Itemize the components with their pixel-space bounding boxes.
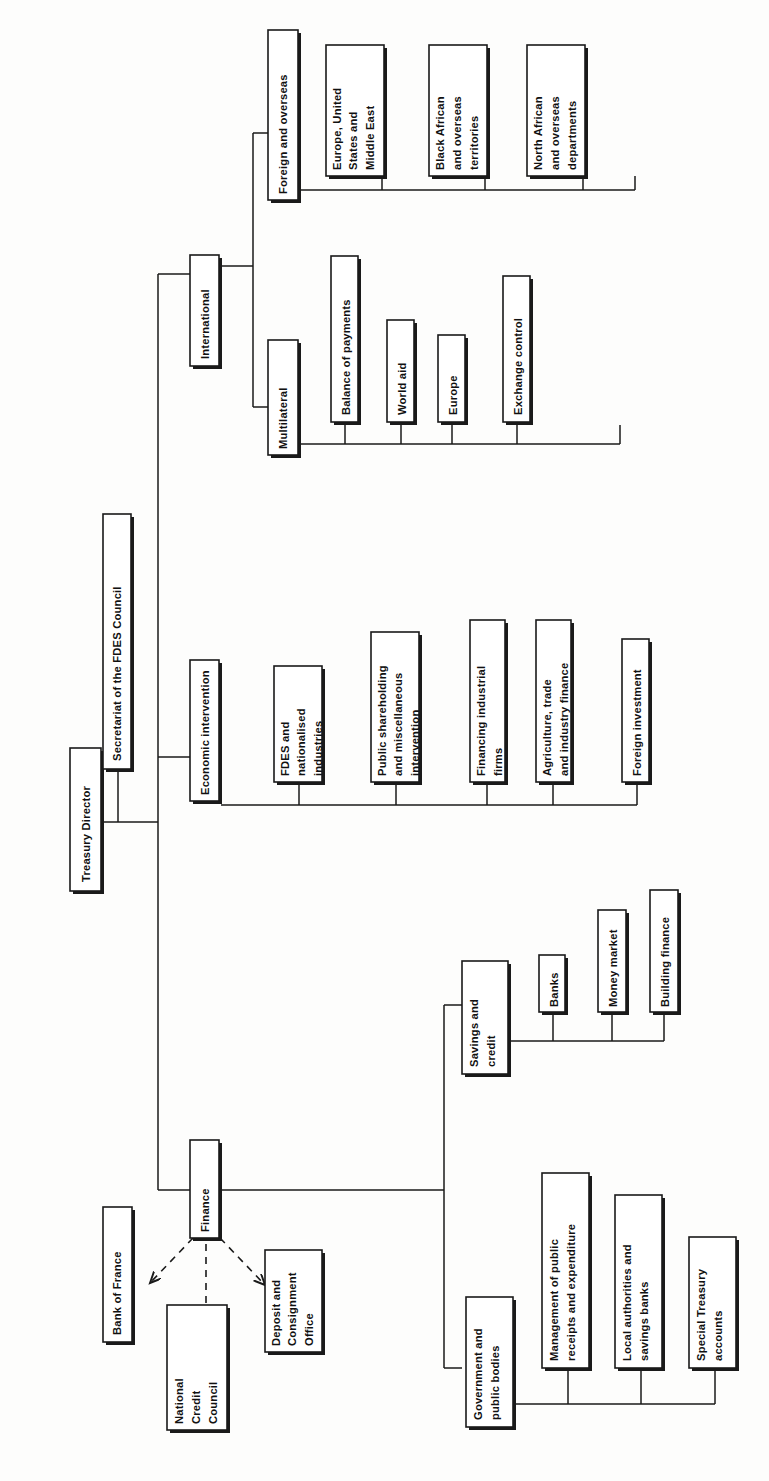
node-label-special-treasury-line1: Special Treasury [695,1268,707,1361]
node-public-shareholding-misc-intervention[interactable]: Public shareholding and miscellaneous in… [371,632,422,785]
node-label-finance: Finance [199,1188,211,1232]
node-national-credit-council[interactable]: National Credit Council [167,1305,230,1433]
node-label-europe-us-me-line3: Middle East [364,106,376,170]
node-finance[interactable]: Finance [190,1140,222,1241]
node-label-bank-of-france: Bank of France [111,1251,123,1335]
node-label-public-shareholding-line3: intervention [409,710,421,776]
node-label-deposit-consignment-line1: Deposit and [270,1280,282,1346]
node-label-agriculture-line1: Agriculture, trade [541,679,553,776]
node-label-secretariat-fdes: Secretariat of the FDES Council [111,586,123,761]
node-label-black-african-line3: territories [468,116,480,170]
node-label-black-african-line1: Black African [434,96,446,170]
node-label-balance-of-payments: Balance of payments [340,299,352,415]
node-label-black-african-line2: and overseas [451,96,463,170]
node-label-europe-us-me-line2: States and [347,111,359,170]
node-europe[interactable]: Europe [438,335,468,425]
node-europe-us-middle-east[interactable]: Europe, United States and Middle East [326,45,387,179]
node-label-management-public-line2: receipts and expenditure [565,1224,577,1361]
node-government-and-public-bodies[interactable]: Government and public bodies [466,1297,516,1430]
node-international[interactable]: International [190,255,222,369]
node-label-government-bodies-line2: public bodies [489,1345,501,1420]
node-label-national-credit-council-line3: Council [207,1382,219,1424]
node-label-deposit-consignment-line3: Office [303,1313,315,1346]
node-special-treasury-accounts[interactable]: Special Treasury accounts [689,1237,739,1371]
node-bank-of-france[interactable]: Bank of France [103,1207,135,1345]
node-treasury-director[interactable]: Treasury Director [70,748,104,894]
node-multilateral[interactable]: Multilateral [268,340,301,458]
node-foreign-and-overseas[interactable]: Foreign and overseas [268,30,301,203]
node-label-national-credit-council-line2: Credit [190,1390,202,1424]
node-label-deposit-consignment-line2: Consignment [286,1272,298,1346]
node-label-exchange-control: Exchange control [512,318,524,415]
node-label-local-authorities-line1: Local authorities and [621,1244,633,1361]
node-savings-and-credit[interactable]: Savings and credit [462,961,511,1077]
node-fdes-nationalised-industries[interactable]: FDES and nationalised industries [274,666,325,785]
org-chart-root: Treasury Director Secretariat of the FDE… [0,0,769,1481]
node-balance-of-payments[interactable]: Balance of payments [331,256,361,425]
node-foreign-investment[interactable]: Foreign investment [622,639,652,785]
node-label-special-treasury-line2: accounts [712,1310,724,1361]
node-label-local-authorities-line2: savings banks [638,1281,650,1361]
dashed-link-deposit-consignment [220,1238,265,1285]
node-label-savings-credit-line2: credit [485,1035,497,1067]
node-north-african-overseas-departments[interactable]: North African and overseas departments [527,45,588,179]
node-deposit-consignment-office[interactable]: Deposit and Consignment Office [265,1250,325,1355]
node-label-international: International [199,289,211,359]
node-economic-intervention[interactable]: Economic intervention [190,660,222,804]
node-label-north-african-line1: North African [532,96,544,170]
node-label-europe-us-me-line1: Europe, United [331,88,343,170]
node-label-treasury-director: Treasury Director [80,786,92,882]
node-banks[interactable]: Banks [539,955,568,1015]
node-label-north-african-line2: and overseas [549,96,561,170]
node-label-foreign-and-overseas: Foreign and overseas [277,74,289,194]
node-label-public-shareholding-line2: and miscellaneous [392,672,404,776]
node-financing-industrial-firms[interactable]: Financing industrial firms [470,620,508,785]
node-label-financing-firms-line2: firms [492,748,504,776]
node-building-finance[interactable]: Building finance [650,890,681,1015]
node-management-public-receipts-expenditure[interactable]: Management of public receipts and expend… [542,1173,592,1371]
node-secretariat-fdes[interactable]: Secretariat of the FDES Council [103,514,134,772]
node-label-north-african-line3: departments [566,101,578,170]
node-label-world-aid: World aid [396,362,408,415]
node-label-government-bodies-line1: Government and [472,1328,484,1420]
org-chart-svg: Treasury Director Secretariat of the FDE… [0,0,769,1481]
node-agriculture-trade-industry-finance[interactable]: Agriculture, trade and industry finance [536,620,574,785]
node-label-economic-intervention: Economic intervention [199,670,211,795]
node-label-savings-credit-line1: Savings and [468,999,480,1067]
node-label-multilateral: Multilateral [277,388,289,449]
node-exchange-control[interactable]: Exchange control [503,276,533,425]
node-label-fdes-line2: nationalised [295,708,307,776]
node-label-europe: Europe [447,375,459,415]
node-label-building-finance: Building finance [659,917,671,1007]
node-label-management-public-line1: Management of public [548,1239,560,1361]
node-label-public-shareholding-line1: Public shareholding [376,665,388,776]
node-local-authorities-savings-banks[interactable]: Local authorities and savings banks [615,1195,665,1371]
node-label-foreign-investment: Foreign investment [631,669,643,776]
node-label-agriculture-line2: and industry finance [558,663,570,776]
node-world-aid[interactable]: World aid [387,320,417,425]
node-label-fdes-line1: FDES and [279,722,291,776]
node-label-financing-firms-line1: Financing industrial [475,666,487,776]
dashed-link-bank-of-france [150,1238,193,1283]
node-label-national-credit-council-line1: National [173,1378,185,1424]
node-label-banks: Banks [548,972,560,1007]
node-label-money-market: Money market [607,929,619,1007]
node-money-market[interactable]: Money market [598,910,629,1015]
node-black-african-overseas-territories[interactable]: Black African and overseas territories [429,45,490,179]
node-label-fdes-line3: industries [312,721,324,776]
